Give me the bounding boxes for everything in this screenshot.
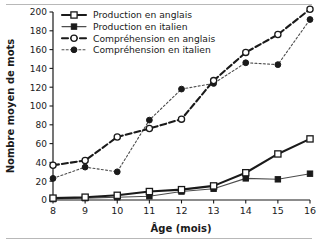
x-tick-label: 14: [240, 205, 252, 216]
x-tick-label: 15: [272, 205, 284, 216]
y-tick-label: 40: [36, 158, 48, 168]
data-point: [243, 49, 249, 55]
data-point: [114, 134, 120, 140]
data-point: [178, 187, 184, 193]
line-chart: 020406080100120140160180200 891011121314…: [0, 0, 318, 249]
data-point: [82, 164, 88, 170]
data-point: [50, 195, 56, 201]
x-tick-label: 11: [143, 205, 155, 216]
data-point: [307, 6, 313, 12]
data-point: [50, 175, 56, 181]
data-point: [114, 192, 120, 198]
data-point: [307, 171, 312, 176]
y-tick-label: 120: [30, 83, 47, 93]
legend-marker: [71, 24, 76, 29]
data-point: [146, 117, 152, 123]
y-axis-title: Nombre moyen de mots: [5, 39, 16, 174]
y-tick-label: 100: [30, 101, 47, 111]
y-tick-label: 80: [36, 120, 48, 130]
y-tick-label: 200: [30, 7, 47, 17]
data-point: [211, 183, 217, 189]
legend-label: Compréhension en anglais: [93, 33, 215, 44]
legend-marker: [71, 47, 77, 53]
x-axis-ticks: 8910111213141516: [50, 200, 316, 216]
data-point: [114, 169, 120, 175]
data-point: [243, 170, 249, 176]
x-tick-label: 16: [304, 205, 316, 216]
legend-item-0[interactable]: Production en anglais: [62, 9, 192, 20]
chart-figure: 020406080100120140160180200 891011121314…: [0, 0, 318, 249]
data-point: [275, 31, 281, 37]
legend-item-3[interactable]: Compréhension en italien: [62, 44, 211, 55]
data-point: [178, 116, 184, 122]
legend-item-2[interactable]: Compréhension en anglais: [62, 33, 215, 44]
data-point: [275, 62, 281, 68]
data-point: [211, 78, 217, 84]
data-point: [275, 177, 280, 182]
data-point: [275, 151, 281, 157]
legend-label: Production en italien: [93, 21, 188, 32]
data-point: [307, 136, 313, 142]
y-tick-label: 140: [30, 64, 47, 74]
chart-legend: Production en anglaisProduction en itali…: [62, 9, 215, 55]
x-tick-label: 8: [50, 205, 56, 216]
y-tick-label: 20: [36, 177, 48, 187]
x-tick-label: 9: [82, 205, 88, 216]
data-point: [50, 162, 56, 168]
data-point: [307, 17, 313, 23]
legend-label: Production en anglais: [93, 9, 192, 20]
legend-marker: [71, 35, 77, 41]
data-point: [179, 86, 185, 92]
x-tick-label: 10: [111, 205, 123, 216]
y-tick-label: 0: [41, 195, 47, 205]
y-tick-label: 60: [36, 139, 48, 149]
y-tick-label: 160: [30, 45, 47, 55]
data-point: [146, 188, 152, 194]
series-0: [50, 136, 313, 201]
y-axis-ticks: 020406080100120140160180200: [30, 7, 53, 205]
legend-item-1[interactable]: Production en italien: [62, 21, 188, 32]
x-tick-label: 13: [208, 205, 220, 216]
data-point: [243, 60, 249, 66]
legend-marker: [71, 12, 77, 18]
data-point: [82, 194, 88, 200]
x-axis-title: Âge (mois): [151, 222, 212, 234]
data-point: [82, 157, 88, 163]
data-point: [146, 125, 152, 131]
legend-label: Compréhension en italien: [93, 44, 211, 55]
x-tick-label: 12: [175, 205, 187, 216]
y-tick-label: 180: [30, 26, 47, 36]
